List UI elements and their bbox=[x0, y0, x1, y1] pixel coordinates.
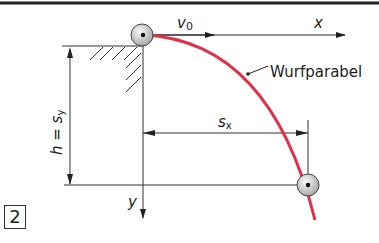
v0-label: v0 bbox=[177, 14, 193, 33]
curve-label: Wurfparabel bbox=[270, 63, 362, 81]
ball-start bbox=[131, 24, 153, 46]
projectile-diagram: v0 x y Wurfparabel sx h = sy bbox=[0, 0, 379, 243]
ball-end bbox=[297, 174, 319, 196]
sx-label: sx bbox=[218, 113, 232, 131]
figure-number: 2 bbox=[4, 205, 26, 229]
x-axis-label: x bbox=[313, 14, 323, 32]
height-label: h = sy bbox=[48, 110, 66, 155]
y-axis-label: y bbox=[127, 193, 138, 211]
